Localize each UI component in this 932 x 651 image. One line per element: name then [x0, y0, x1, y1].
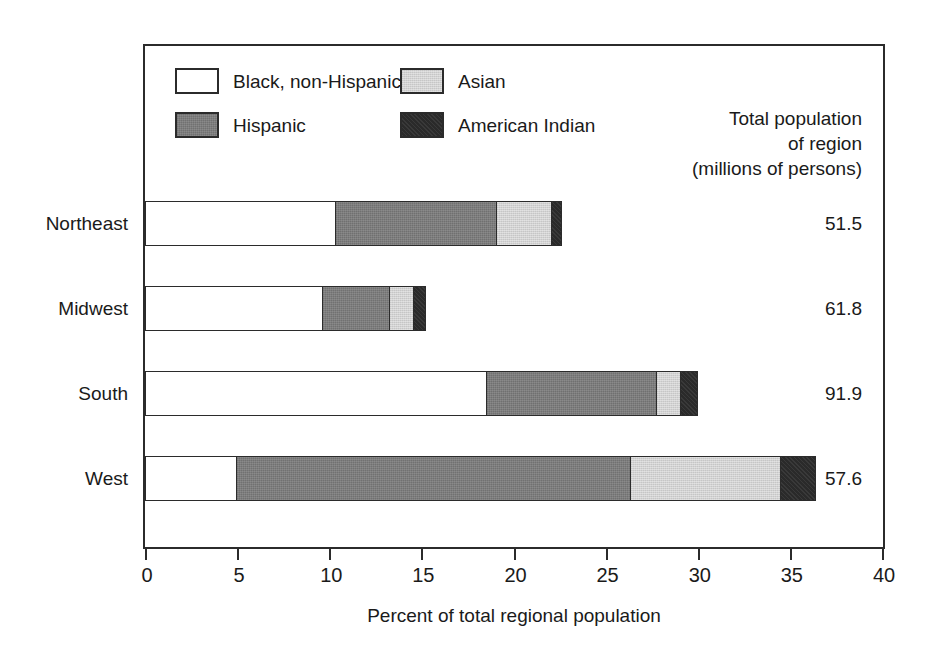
total-population-header-line-1: Total population [600, 106, 862, 131]
x-tick-label-40: 40 [854, 563, 914, 587]
x-tick-label-5: 5 [209, 563, 269, 587]
x-axis: 0510152025303540 [143, 549, 885, 550]
x-tick-label-30: 30 [670, 563, 730, 587]
x-tick-label-15: 15 [393, 563, 453, 587]
legend-swatch-asian-icon [400, 68, 444, 94]
total-population-column-header: Total population of region (millions of … [600, 106, 862, 181]
category-label-northeast: Northeast [0, 201, 128, 246]
x-tick-5 [237, 549, 239, 560]
legend-entry-asian: Asian [400, 66, 506, 96]
x-tick-0 [145, 549, 147, 560]
total-population-header-line-3: (millions of persons) [600, 156, 862, 181]
legend-label-asian: Asian [458, 72, 506, 91]
x-tick-label-0: 0 [117, 563, 177, 587]
x-axis-title: Percent of total regional population [143, 605, 885, 627]
x-tick-label-35: 35 [762, 563, 822, 587]
legend-swatch-black-non-hispanic-icon [175, 68, 219, 94]
legend-swatch-hispanic-icon [175, 112, 219, 138]
category-label-midwest: Midwest [0, 286, 128, 331]
legend-row: Black, non-Hispanic Asian [175, 66, 595, 100]
x-tick-30 [698, 549, 700, 560]
category-label-west: West [0, 456, 128, 501]
x-tick-20 [514, 549, 516, 560]
legend-entry-hispanic: Hispanic [175, 110, 306, 140]
x-tick-10 [329, 549, 331, 560]
category-label-south: South [0, 371, 128, 416]
x-tick-label-20: 20 [486, 563, 546, 587]
legend-row: Hispanic American Indian [175, 110, 595, 144]
chart-legend: Black, non-Hispanic Asian Hispanic Ameri… [175, 62, 595, 152]
x-tick-25 [606, 549, 608, 560]
legend-entry-american-indian: American Indian [400, 110, 595, 140]
stacked-bar-chart-figure: Black, non-Hispanic Asian Hispanic Ameri… [0, 0, 932, 651]
x-tick-15 [421, 549, 423, 560]
legend-label-american-indian: American Indian [458, 116, 595, 135]
legend-label-black-non-hispanic: Black, non-Hispanic [233, 72, 401, 91]
x-tick-35 [790, 549, 792, 560]
legend-swatch-american-indian-icon [400, 112, 444, 138]
x-tick-40 [882, 549, 884, 560]
legend-label-hispanic: Hispanic [233, 116, 306, 135]
total-population-header-line-2: of region [600, 131, 862, 156]
legend-entry-black-non-hispanic: Black, non-Hispanic [175, 66, 401, 96]
x-tick-label-25: 25 [578, 563, 638, 587]
x-tick-label-10: 10 [301, 563, 361, 587]
